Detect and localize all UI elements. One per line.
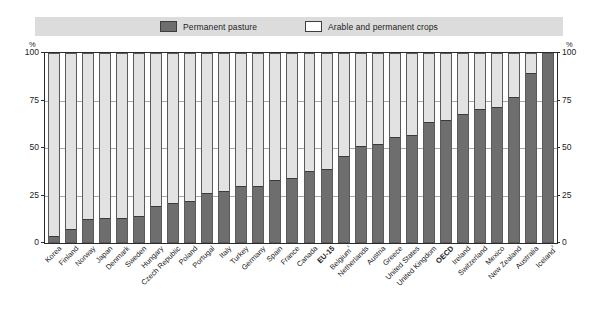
bar-poland[interactable] bbox=[184, 53, 196, 243]
bar-portugal[interactable] bbox=[201, 53, 213, 243]
bar-slot bbox=[199, 53, 216, 243]
bar-slot bbox=[386, 53, 403, 243]
chart-legend: Permanent pasture Arable and permanent c… bbox=[35, 17, 563, 36]
bar-denmark[interactable] bbox=[116, 53, 128, 243]
y-tick-label-right-25: 25 bbox=[562, 190, 586, 200]
bar-turkey[interactable] bbox=[235, 53, 247, 243]
bar-segment-permanent-pasture bbox=[49, 236, 59, 242]
bar-segment-permanent-pasture bbox=[543, 54, 553, 242]
bar-australia[interactable] bbox=[525, 53, 537, 243]
bar-finland[interactable] bbox=[65, 53, 77, 243]
bar-slot bbox=[403, 53, 420, 243]
bar-united-states[interactable] bbox=[406, 53, 418, 243]
bar-canada[interactable] bbox=[304, 53, 316, 243]
bar-segment-permanent-pasture bbox=[424, 122, 434, 242]
y-tick-label-right-0: 0 bbox=[562, 237, 586, 247]
legend-swatch-crops-icon bbox=[305, 21, 322, 32]
bar-segment-permanent-pasture bbox=[441, 120, 451, 242]
bar-slot bbox=[147, 53, 164, 243]
bar-austria[interactable] bbox=[372, 53, 384, 243]
bar-france[interactable] bbox=[286, 53, 298, 243]
y-tick-label-left-50: 50 bbox=[17, 142, 39, 152]
bar-slot bbox=[301, 53, 318, 243]
bar-segment-permanent-pasture bbox=[202, 193, 212, 242]
bar-slot bbox=[45, 53, 62, 243]
y-tick-label-left-75: 75 bbox=[17, 95, 39, 105]
y-tick-label-right-50: 50 bbox=[562, 142, 586, 152]
bar-segment-permanent-pasture bbox=[458, 114, 468, 242]
bar-segment-permanent-pasture bbox=[356, 146, 366, 242]
bar-oecd[interactable] bbox=[440, 53, 452, 243]
bar-segment-permanent-pasture bbox=[339, 156, 349, 242]
bar-slot bbox=[420, 53, 437, 243]
bar-slot bbox=[164, 53, 181, 243]
bar-slot bbox=[335, 53, 352, 243]
bar-segment-permanent-pasture bbox=[168, 203, 178, 242]
bar-segment-permanent-pasture bbox=[83, 219, 93, 242]
bar-slot bbox=[472, 53, 489, 243]
bar-korea[interactable] bbox=[48, 53, 60, 243]
bar-slot bbox=[489, 53, 506, 243]
bar-slot bbox=[284, 53, 301, 243]
bar-segment-permanent-pasture bbox=[492, 107, 502, 242]
bar-slot bbox=[455, 53, 472, 243]
legend-label-arable-and-permanent-crops: Arable and permanent crops bbox=[328, 22, 438, 32]
bar-switzerland[interactable] bbox=[474, 53, 486, 243]
legend-swatch-pasture-icon bbox=[160, 21, 177, 32]
bar-slot bbox=[130, 53, 147, 243]
bar-belgium-[interactable] bbox=[338, 53, 350, 243]
bar-mexico[interactable] bbox=[491, 53, 503, 243]
bar-ireland[interactable] bbox=[457, 53, 469, 243]
bar-slot bbox=[96, 53, 113, 243]
bar-slot bbox=[523, 53, 540, 243]
bar-slot bbox=[369, 53, 386, 243]
bar-segment-permanent-pasture bbox=[151, 206, 161, 242]
bar-slot bbox=[318, 53, 335, 243]
y-tick-label-left-100: 100 bbox=[17, 47, 39, 57]
bar-iceland-[interactable] bbox=[542, 53, 554, 243]
bar-eu-15[interactable] bbox=[321, 53, 333, 243]
bar-segment-permanent-pasture bbox=[526, 73, 536, 242]
bar-czech-republic[interactable] bbox=[167, 53, 179, 243]
bar-segment-permanent-pasture bbox=[185, 201, 195, 242]
bar-segment-permanent-pasture bbox=[236, 186, 246, 242]
bar-segment-permanent-pasture bbox=[407, 135, 417, 242]
bar-new-zealand[interactable] bbox=[508, 53, 520, 243]
bar-segment-permanent-pasture bbox=[270, 180, 280, 242]
bar-slot bbox=[267, 53, 284, 243]
bar-germany[interactable] bbox=[252, 53, 264, 243]
bar-segment-permanent-pasture bbox=[100, 218, 110, 242]
y-tick-label-left-0: 0 bbox=[17, 237, 39, 247]
bar-segment-permanent-pasture bbox=[253, 186, 263, 242]
bar-united-kingdom[interactable] bbox=[423, 53, 435, 243]
bar-hungary[interactable] bbox=[150, 53, 162, 243]
plot-area bbox=[44, 52, 558, 244]
bar-segment-permanent-pasture bbox=[373, 144, 383, 242]
legend-label-permanent-pasture: Permanent pasture bbox=[183, 22, 257, 32]
bar-segment-permanent-pasture bbox=[390, 137, 400, 242]
bar-segment-permanent-pasture bbox=[66, 229, 76, 242]
bar-segment-permanent-pasture bbox=[475, 109, 485, 242]
bar-norway[interactable] bbox=[82, 53, 94, 243]
bar-slot bbox=[437, 53, 454, 243]
bar-japan[interactable] bbox=[99, 53, 111, 243]
legend-item-permanent-pasture: Permanent pasture bbox=[160, 21, 257, 32]
bar-slot bbox=[79, 53, 96, 243]
bar-slot bbox=[506, 53, 523, 243]
bar-segment-permanent-pasture bbox=[134, 216, 144, 242]
bar-slot bbox=[233, 53, 250, 243]
bar-slot bbox=[182, 53, 199, 243]
bar-segment-permanent-pasture bbox=[219, 191, 229, 242]
bar-greece[interactable] bbox=[389, 53, 401, 243]
bar-italy[interactable] bbox=[218, 53, 230, 243]
bar-netherlands[interactable] bbox=[355, 53, 367, 243]
bar-spain[interactable] bbox=[269, 53, 281, 243]
chart-root: Permanent pasture Arable and permanent c… bbox=[0, 0, 598, 327]
bar-slot bbox=[352, 53, 369, 243]
y-tick-label-left-25: 25 bbox=[17, 190, 39, 200]
bar-segment-permanent-pasture bbox=[305, 171, 315, 242]
y-tick-label-right-75: 75 bbox=[562, 95, 586, 105]
bar-slot bbox=[216, 53, 233, 243]
bar-sweden[interactable] bbox=[133, 53, 145, 243]
bar-segment-permanent-pasture bbox=[509, 97, 519, 242]
